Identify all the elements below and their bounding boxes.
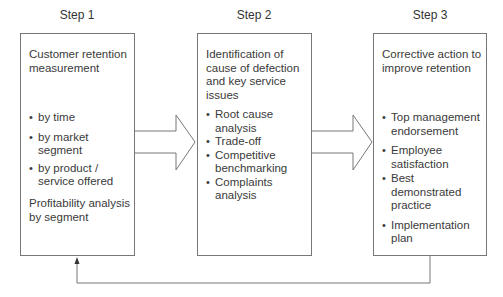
feedback-arrowhead-icon xyxy=(75,257,80,264)
step-2-bullet: Competitive benchmarking xyxy=(206,149,307,176)
step-3-bullet: Top management endorsement xyxy=(382,111,482,138)
step-2-heading: Identification of cause of defection and… xyxy=(206,48,307,102)
feedback-loop-line xyxy=(77,256,430,283)
step-1-footer: Profitability analysis by segment xyxy=(29,197,130,224)
step-1-heading: Customer retention measurement xyxy=(29,48,130,75)
step-1-bullet: by market segment xyxy=(29,131,130,158)
step-2-bullet-list: Root cause analysis Trade-off Competitiv… xyxy=(206,108,307,203)
step-3-bullet: Implementation plan xyxy=(382,219,482,246)
step-1-title: Step 1 xyxy=(20,8,134,22)
step-1-box: Customer retention measurement by time b… xyxy=(20,33,135,256)
step-1-bullet: by product / service offered xyxy=(29,162,130,189)
step-3-bullet: Best demonstrated practice xyxy=(382,172,482,213)
step-2-box: Identification of cause of defection and… xyxy=(197,33,312,256)
step-1-bullet: by time xyxy=(29,111,130,125)
step-2-bullet: Complaints analysis xyxy=(206,176,307,203)
step-3-box: Corrective action to improve retention T… xyxy=(373,33,487,256)
block-arrow-1-icon xyxy=(134,115,195,170)
step-2-bullet: Trade-off xyxy=(206,135,307,149)
step-3-heading: Corrective action to improve retention xyxy=(382,48,482,75)
step-1-bullet-list: by time by market segment by product / s… xyxy=(29,111,130,189)
step-2-bullet: Root cause analysis xyxy=(206,108,307,135)
step-3-bullet: Employee satisfaction xyxy=(382,144,482,171)
step-3-bullet-list: Top management endorsement Employee sati… xyxy=(382,111,482,246)
step-2-title: Step 2 xyxy=(197,8,311,22)
block-arrow-2-icon xyxy=(311,115,372,170)
step-3-title: Step 3 xyxy=(373,8,487,22)
